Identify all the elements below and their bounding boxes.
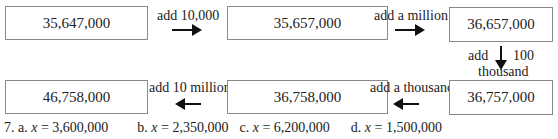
answer-c-label: c. xyxy=(239,120,249,135)
answers-line: 7. a. x = 3,600,000 b. x = 2,350,000 c. … xyxy=(4,120,442,136)
right-arrow-icon xyxy=(172,24,202,36)
number-value: 36,758,000 xyxy=(274,89,342,106)
answer-a-value: = 3,600,000 xyxy=(41,120,108,135)
number-box-6: 46,758,000 xyxy=(5,80,148,114)
answer-b-label: b. xyxy=(137,120,148,135)
operation-label-4: add 10 million xyxy=(149,80,231,96)
operation-label-2: add a million xyxy=(374,8,448,24)
answer-d-variable: x xyxy=(365,120,371,135)
right-arrow-icon xyxy=(395,24,425,36)
operation-label-3: add a thousand xyxy=(370,80,454,96)
number-box-5: 36,758,000 xyxy=(227,80,388,114)
answer-b-value: = 2,350,000 xyxy=(161,120,228,135)
answer-a-label: a. xyxy=(18,120,28,135)
number-value: 35,647,000 xyxy=(43,15,111,32)
number-box-2: 35,657,000 xyxy=(227,6,388,40)
answer-d-label: d. xyxy=(351,120,362,135)
answer-c-value: = 6,200,000 xyxy=(262,120,329,135)
answer-d-value: = 1,500,000 xyxy=(375,120,442,135)
answer-c-variable: x xyxy=(253,120,259,135)
down-operation-left: add xyxy=(468,48,488,64)
number-box-4: 36,757,000 xyxy=(449,80,553,115)
answer-b-variable: x xyxy=(151,120,157,135)
number-value: 36,757,000 xyxy=(467,89,535,106)
number-box-1: 35,647,000 xyxy=(5,6,148,40)
question-number: 7. xyxy=(4,120,15,135)
down-operation-bottom: thousand xyxy=(478,64,529,80)
operation-label-1: add 10,000 xyxy=(157,8,219,24)
left-arrow-icon xyxy=(175,98,201,110)
number-value: 46,758,000 xyxy=(43,89,111,106)
number-box-3: 36,657,000 xyxy=(449,7,553,42)
number-value: 35,657,000 xyxy=(274,15,342,32)
number-value: 36,657,000 xyxy=(467,16,535,33)
left-arrow-icon xyxy=(393,98,419,110)
answer-a-variable: x xyxy=(31,120,37,135)
down-operation-right: 100 xyxy=(513,48,534,64)
